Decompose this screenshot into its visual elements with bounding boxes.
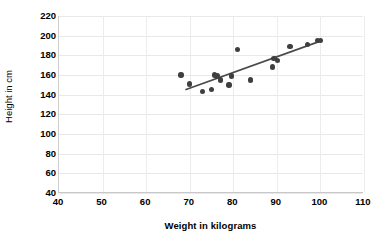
- x-tick-label-40: 40: [43, 196, 73, 207]
- x-tick-label-80: 80: [217, 196, 247, 207]
- x-axis-title: Weight in kilograms: [58, 220, 363, 231]
- x-tick-label-50: 50: [87, 196, 117, 207]
- x-tick-label-100: 100: [304, 196, 334, 207]
- scatter-chart: Height in cm 406080100120140160180200220…: [0, 0, 385, 241]
- x-tick-label-110: 110: [348, 196, 378, 207]
- x-tick-label-70: 70: [174, 196, 204, 207]
- x-tick-label-90: 90: [261, 196, 291, 207]
- x-tick-label-60: 60: [130, 196, 160, 207]
- x-axis-tick-labels: 405060708090100110: [0, 0, 385, 241]
